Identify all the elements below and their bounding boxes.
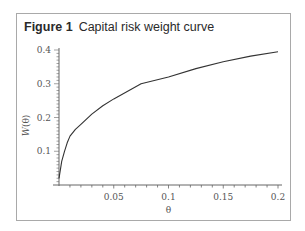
line-chart: 0.050.10.150.20.10.20.30.4θW(θ) <box>0 0 305 231</box>
x-tick-label: 0.05 <box>104 192 124 202</box>
y-tick-label: 0.2 <box>37 113 51 123</box>
y-tick-label: 0.1 <box>37 146 51 156</box>
data-series-line <box>59 52 278 179</box>
x-tick-label: 0.15 <box>213 192 233 202</box>
x-axis-label: θ <box>166 205 171 215</box>
series-line <box>59 52 278 179</box>
axis-labels: 0.050.10.150.20.10.20.30.4θW(θ) <box>21 45 285 215</box>
y-tick-label: 0.3 <box>37 79 52 89</box>
x-tick-label: 0.1 <box>161 192 175 202</box>
x-tick-label: 0.2 <box>271 192 285 202</box>
y-axis-label: W(θ) <box>21 115 31 137</box>
y-tick-label: 0.4 <box>37 45 52 55</box>
